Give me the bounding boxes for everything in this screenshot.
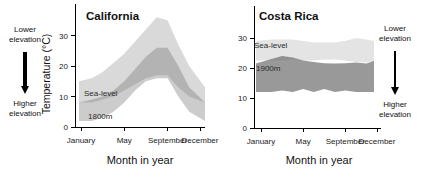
x-tick-label: May (117, 136, 132, 145)
panel-title: California (86, 10, 140, 22)
two-panel-temperature-figure: Lower elevation Higher elevation 0102030… (0, 0, 421, 178)
california-1800m-label: 1800m (88, 112, 113, 121)
y-tick-label: 10 (238, 94, 247, 103)
panel-title: Costa Rica (259, 10, 319, 22)
downward-arrow-icon (2, 52, 48, 94)
arrow-shaft (23, 52, 27, 86)
elevation-legend-right: Lower elevation Higher elevation (369, 24, 421, 119)
costarica-sea-level-band (256, 38, 374, 63)
y-tick-label: 30 (238, 34, 247, 43)
y-tick-label: 20 (59, 62, 68, 71)
x-tick-label: January (67, 136, 95, 145)
y-tick-label: 30 (59, 32, 68, 41)
costarica-1900m-label: 1900m (256, 64, 281, 73)
downward-arrow-icon (369, 51, 421, 95)
higher-elevation-label: Higher elevation (369, 100, 421, 119)
california-1800m-band (79, 48, 205, 121)
lower-elevation-label: Lower elevation (369, 24, 421, 43)
arrow-shaft (394, 51, 397, 87)
x-tick-label: December (359, 137, 396, 146)
arrow-head (21, 86, 29, 94)
x-tick-label: September (148, 136, 187, 145)
costarica-1900m-band (256, 56, 374, 92)
arrow-head (391, 87, 399, 95)
y-tick-label: 0 (64, 123, 69, 132)
y-tick-label: 0 (243, 124, 248, 133)
y-tick-label: 20 (238, 64, 247, 73)
california-temperature-chart: 0102030JanuaryMaySeptemberDecemberSea-le… (38, 0, 223, 178)
x-tick-label: December (182, 136, 219, 145)
x-axis-label: Month in year (107, 154, 174, 166)
higher-elevation-label: Higher elevation (2, 99, 48, 118)
lower-elevation-label: Lower elevation (2, 25, 48, 44)
x-tick-label: January (247, 137, 275, 146)
costarica-sea-level-label: Sea-level (254, 41, 288, 50)
x-tick-label: September (326, 137, 365, 146)
california-sea-level-band (79, 17, 205, 102)
x-axis-label: Month in year (286, 154, 353, 166)
x-tick-label: May (296, 137, 311, 146)
y-tick-label: 10 (59, 93, 68, 102)
california-sea-level-label: Sea-level (84, 89, 118, 98)
elevation-legend-left: Lower elevation Higher elevation (2, 25, 48, 118)
